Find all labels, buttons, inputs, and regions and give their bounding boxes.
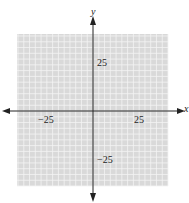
y-axis-down-arrow-icon [90, 193, 96, 202]
coordinate-plane [0, 0, 189, 203]
y-axis-up-arrow-icon [90, 16, 96, 25]
tick-label-x-neg: −25 [38, 115, 54, 125]
x-axis-label: x [184, 104, 188, 114]
x-axis-left-arrow-icon [2, 108, 10, 114]
tick-label-y-pos: 25 [97, 58, 107, 68]
tick-label-y-neg: −25 [97, 155, 113, 165]
tick-label-x-pos: 25 [134, 115, 144, 125]
y-axis-label: y [91, 7, 95, 17]
